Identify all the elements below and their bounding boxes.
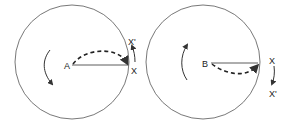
label-b: B <box>202 59 208 69</box>
diagram-a: A X X' <box>15 5 137 119</box>
diagram-b: B X X' <box>146 5 277 119</box>
diagram-canvas: A X X' B X X' <box>0 0 288 127</box>
label-a: A <box>64 61 70 71</box>
label-x: X <box>131 66 137 76</box>
rotating-disc <box>15 5 129 119</box>
displacement-arrow-icon <box>132 46 135 62</box>
dashed-path <box>73 51 127 64</box>
displacement-arrow-icon <box>272 66 274 84</box>
rotation-arrow-icon <box>182 45 187 80</box>
dashed-path <box>212 64 257 74</box>
rotation-arrow-icon <box>44 50 52 84</box>
label-x: X <box>269 56 275 66</box>
label-x-prime: X' <box>269 89 277 99</box>
label-x-prime: X' <box>128 37 136 47</box>
